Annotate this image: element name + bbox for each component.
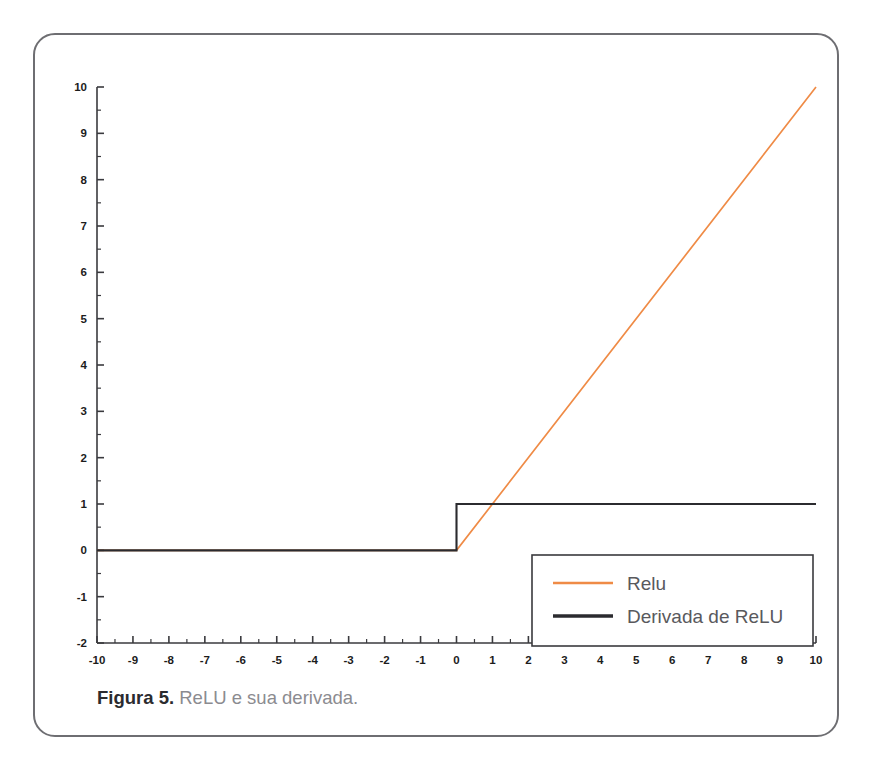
figure-card: -2-1012345678910 -10-9-8-7-6-5-4-3-2-101… bbox=[33, 33, 839, 737]
series-line bbox=[97, 504, 816, 550]
x-tick-label: -6 bbox=[236, 654, 246, 666]
chart-legend: ReluDerivada de ReLU bbox=[532, 555, 813, 646]
chart-series bbox=[97, 87, 816, 550]
x-tick-label: 1 bbox=[489, 654, 496, 666]
y-tick-label: 4 bbox=[81, 359, 88, 371]
y-axis-ticks bbox=[97, 87, 104, 643]
y-tick-label: 3 bbox=[81, 405, 87, 417]
x-tick-label: 7 bbox=[705, 654, 711, 666]
y-tick-label: 7 bbox=[81, 220, 87, 232]
x-tick-label: -8 bbox=[164, 654, 175, 666]
x-tick-label: 0 bbox=[453, 654, 459, 666]
x-tick-label: -2 bbox=[379, 654, 389, 666]
y-tick-label: 10 bbox=[74, 81, 87, 93]
legend-box bbox=[532, 555, 813, 646]
figure-caption-text: ReLU e sua derivada. bbox=[179, 687, 358, 708]
y-tick-label: 8 bbox=[81, 174, 88, 186]
series-line bbox=[97, 87, 816, 550]
x-tick-label: 3 bbox=[561, 654, 567, 666]
x-tick-label: -5 bbox=[272, 654, 283, 666]
figure-caption-number: Figura 5. bbox=[97, 687, 174, 708]
y-tick-label: 0 bbox=[81, 544, 87, 556]
x-tick-label: 10 bbox=[810, 654, 823, 666]
x-tick-label: -3 bbox=[344, 654, 354, 666]
x-tick-label: -10 bbox=[89, 654, 106, 666]
x-axis-tick-labels: -10-9-8-7-6-5-4-3-2-1012345678910 bbox=[89, 654, 823, 666]
x-tick-label: -1 bbox=[415, 654, 426, 666]
legend-item-label: Derivada de ReLU bbox=[627, 606, 783, 627]
y-axis-tick-labels: -2-1012345678910 bbox=[74, 81, 87, 649]
y-tick-label: 5 bbox=[81, 313, 88, 325]
y-tick-label: 1 bbox=[81, 498, 88, 510]
x-tick-label: 6 bbox=[669, 654, 675, 666]
chart-plot-area: -2-1012345678910 -10-9-8-7-6-5-4-3-2-101… bbox=[35, 35, 841, 739]
x-tick-label: -4 bbox=[308, 654, 319, 666]
x-tick-label: -7 bbox=[200, 654, 210, 666]
x-tick-label: 4 bbox=[597, 654, 604, 666]
y-tick-label: -1 bbox=[77, 591, 88, 603]
legend-item-label: Relu bbox=[627, 573, 666, 594]
x-tick-label: 5 bbox=[633, 654, 640, 666]
figure-caption: Figura 5. ReLU e sua derivada. bbox=[97, 686, 797, 710]
x-tick-label: -9 bbox=[128, 654, 138, 666]
x-tick-label: 8 bbox=[741, 654, 748, 666]
y-tick-label: 9 bbox=[81, 127, 87, 139]
y-tick-label: 2 bbox=[81, 452, 87, 464]
y-tick-label: 6 bbox=[81, 266, 87, 278]
x-tick-label: 9 bbox=[777, 654, 783, 666]
x-tick-label: 2 bbox=[525, 654, 531, 666]
y-tick-label: -2 bbox=[77, 637, 87, 649]
relu-chart-svg: -2-1012345678910 -10-9-8-7-6-5-4-3-2-101… bbox=[35, 35, 841, 739]
